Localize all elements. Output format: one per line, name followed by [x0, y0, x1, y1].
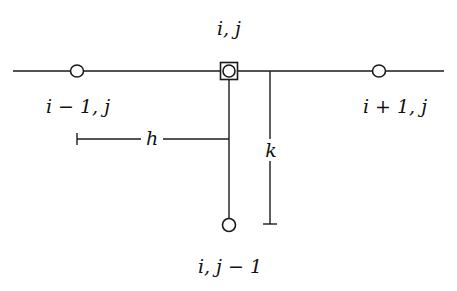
h-dimension: h: [77, 127, 229, 149]
k-dimension: k: [263, 71, 277, 224]
stencil-diagram: h k i, j i − 1, j i + 1, j i, j − 1: [0, 0, 457, 291]
node-left-label: i − 1, j: [46, 95, 110, 117]
node-right-circle-icon: [373, 65, 386, 77]
h-label: h: [146, 127, 158, 149]
node-below-circle-icon: [223, 219, 236, 232]
node-center-circle-icon: [223, 65, 235, 77]
node-center-label: i, j: [217, 17, 241, 39]
node-right-label: i + 1, j: [363, 95, 427, 117]
node-below-label: i, j − 1: [198, 255, 262, 277]
node-center-marker: [221, 63, 238, 80]
k-label: k: [265, 139, 277, 161]
node-left-circle-icon: [71, 65, 84, 77]
